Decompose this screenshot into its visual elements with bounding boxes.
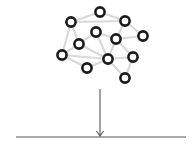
network-edge — [71, 21, 125, 22]
network-node — [82, 63, 91, 72]
network-node — [138, 31, 147, 40]
network-node — [128, 52, 137, 61]
network-node — [91, 27, 100, 36]
network-node — [57, 50, 66, 59]
network-node — [120, 16, 129, 25]
network-diagram — [0, 0, 195, 148]
network-node — [120, 73, 129, 82]
network-node — [103, 54, 112, 63]
network-node — [74, 39, 83, 48]
network-node — [95, 7, 104, 16]
down-arrow-icon — [97, 89, 104, 136]
network-node — [111, 34, 120, 43]
network-node — [66, 17, 75, 26]
